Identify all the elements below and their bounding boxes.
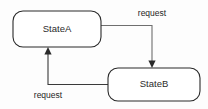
- state-node-state-b[interactable]: StateB: [108, 68, 200, 101]
- state-b-label: StateB: [140, 78, 169, 89]
- state-node-state-a[interactable]: StateA: [13, 11, 101, 47]
- transition-b-to-a-arrowhead: [44, 47, 51, 55]
- transition-b-to-a-path: [48, 53, 108, 85]
- transition-a-to-b[interactable]: [101, 26, 156, 69]
- state-a-label: StateA: [43, 23, 72, 34]
- transition-a-to-b-path: [101, 26, 152, 63]
- state-diagram-canvas: StateA StateB request request: [0, 0, 208, 109]
- state-diagram: StateA StateB request request: [0, 0, 208, 109]
- transition-b-to-a[interactable]: [44, 47, 108, 85]
- transition-a-to-b-arrowhead: [148, 61, 155, 69]
- transition-b-to-a-label: request: [34, 90, 63, 100]
- transition-a-to-b-label: request: [138, 8, 167, 18]
